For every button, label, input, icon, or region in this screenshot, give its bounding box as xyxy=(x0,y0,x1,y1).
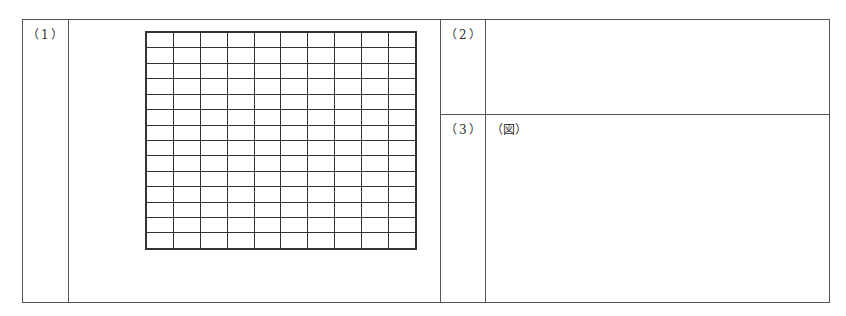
grid-cell[interactable] xyxy=(308,140,335,155)
grid-cell[interactable] xyxy=(147,140,174,155)
grid-cell[interactable] xyxy=(281,79,308,94)
grid-cell[interactable] xyxy=(227,79,254,94)
grid-cell[interactable] xyxy=(147,156,174,171)
grid-cell[interactable] xyxy=(254,156,281,171)
grid-cell[interactable] xyxy=(227,171,254,186)
grid-cell[interactable] xyxy=(227,33,254,48)
grid-cell[interactable] xyxy=(200,218,227,233)
grid-cell[interactable] xyxy=(362,94,389,109)
grid-cell[interactable] xyxy=(254,218,281,233)
grid-cell[interactable] xyxy=(308,110,335,125)
answer-area-3[interactable] xyxy=(486,138,829,302)
grid-cell[interactable] xyxy=(254,94,281,109)
grid-cell[interactable] xyxy=(389,187,416,202)
grid-cell[interactable] xyxy=(389,202,416,217)
grid-cell[interactable] xyxy=(308,63,335,78)
grid-cell[interactable] xyxy=(200,202,227,217)
grid-cell[interactable] xyxy=(173,218,200,233)
grid-cell[interactable] xyxy=(254,48,281,63)
grid-cell[interactable] xyxy=(308,218,335,233)
grid-cell[interactable] xyxy=(308,187,335,202)
grid-cell[interactable] xyxy=(389,110,416,125)
grid-cell[interactable] xyxy=(308,125,335,140)
grid-cell[interactable] xyxy=(389,125,416,140)
grid-cell[interactable] xyxy=(227,48,254,63)
grid-cell[interactable] xyxy=(147,48,174,63)
grid-cell[interactable] xyxy=(200,79,227,94)
grid-cell[interactable] xyxy=(335,110,362,125)
grid-cell[interactable] xyxy=(173,63,200,78)
grid-cell[interactable] xyxy=(281,125,308,140)
grid-cell[interactable] xyxy=(227,63,254,78)
grid-cell[interactable] xyxy=(281,63,308,78)
grid-cell[interactable] xyxy=(147,171,174,186)
grid-cell[interactable] xyxy=(227,187,254,202)
grid-cell[interactable] xyxy=(335,63,362,78)
grid-cell[interactable] xyxy=(227,125,254,140)
grid-cell[interactable] xyxy=(200,94,227,109)
grid-cell[interactable] xyxy=(362,218,389,233)
grid-cell[interactable] xyxy=(227,94,254,109)
grid-cell[interactable] xyxy=(335,187,362,202)
grid-cell[interactable] xyxy=(200,48,227,63)
grid-cell[interactable] xyxy=(362,202,389,217)
grid-cell[interactable] xyxy=(389,33,416,48)
grid-cell[interactable] xyxy=(362,156,389,171)
grid-cell[interactable] xyxy=(389,218,416,233)
grid-cell[interactable] xyxy=(281,110,308,125)
grid-cell[interactable] xyxy=(254,187,281,202)
grid-cell[interactable] xyxy=(173,125,200,140)
grid-cell[interactable] xyxy=(147,63,174,78)
grid-cell[interactable] xyxy=(200,125,227,140)
grid-cell[interactable] xyxy=(308,171,335,186)
grid-cell[interactable] xyxy=(308,202,335,217)
grid-cell[interactable] xyxy=(389,156,416,171)
grid-cell[interactable] xyxy=(281,94,308,109)
grid-cell[interactable] xyxy=(173,140,200,155)
grid-cell[interactable] xyxy=(308,156,335,171)
grid-cell[interactable] xyxy=(254,140,281,155)
grid-cell[interactable] xyxy=(308,233,335,249)
grid-cell[interactable] xyxy=(281,33,308,48)
grid-cell[interactable] xyxy=(335,33,362,48)
grid-cell[interactable] xyxy=(200,233,227,249)
grid-cell[interactable] xyxy=(254,233,281,249)
grid-cell[interactable] xyxy=(147,110,174,125)
grid-cell[interactable] xyxy=(147,125,174,140)
grid-cell[interactable] xyxy=(281,202,308,217)
grid-cell[interactable] xyxy=(200,171,227,186)
grid-cell[interactable] xyxy=(281,218,308,233)
grid-cell[interactable] xyxy=(389,48,416,63)
grid-cell[interactable] xyxy=(173,79,200,94)
grid-cell[interactable] xyxy=(200,33,227,48)
grid-cell[interactable] xyxy=(147,202,174,217)
grid-cell[interactable] xyxy=(335,94,362,109)
grid-cell[interactable] xyxy=(147,233,174,249)
grid-cell[interactable] xyxy=(200,110,227,125)
grid-cell[interactable] xyxy=(173,202,200,217)
grid-cell[interactable] xyxy=(254,33,281,48)
grid-cell[interactable] xyxy=(335,156,362,171)
grid-cell[interactable] xyxy=(147,94,174,109)
grid-cell[interactable] xyxy=(308,79,335,94)
grid-cell[interactable] xyxy=(362,171,389,186)
grid-cell[interactable] xyxy=(335,125,362,140)
grid-cell[interactable] xyxy=(227,110,254,125)
grid-cell[interactable] xyxy=(227,202,254,217)
grid-cell[interactable] xyxy=(281,48,308,63)
grid-cell[interactable] xyxy=(362,48,389,63)
grid-cell[interactable] xyxy=(227,156,254,171)
grid-cell[interactable] xyxy=(362,79,389,94)
grid-cell[interactable] xyxy=(173,48,200,63)
grid-cell[interactable] xyxy=(147,79,174,94)
grid-cell[interactable] xyxy=(147,33,174,48)
answer-area-2[interactable] xyxy=(486,20,829,114)
grid-cell[interactable] xyxy=(389,140,416,155)
grid-cell[interactable] xyxy=(308,33,335,48)
grid-cell[interactable] xyxy=(335,233,362,249)
grid-cell[interactable] xyxy=(254,79,281,94)
grid-cell[interactable] xyxy=(389,233,416,249)
grid-cell[interactable] xyxy=(254,110,281,125)
answer-grid-1[interactable] xyxy=(145,31,417,250)
grid-cell[interactable] xyxy=(335,140,362,155)
